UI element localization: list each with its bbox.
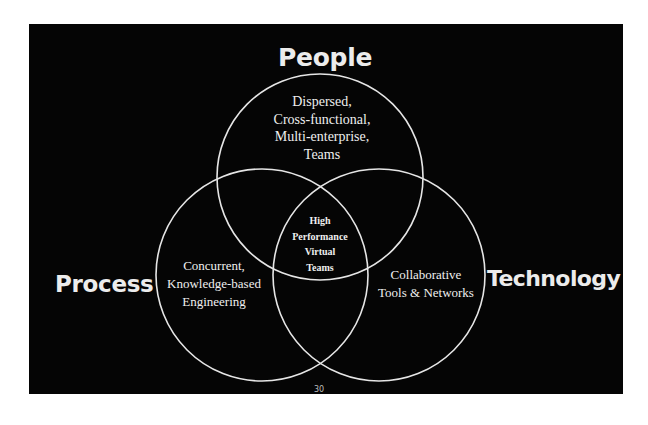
technology-label: Technology bbox=[487, 268, 620, 290]
center-region-line: Virtual bbox=[292, 244, 348, 260]
people-region-line: Teams bbox=[274, 146, 371, 164]
people-region-text: Dispersed, Cross-functional, Multi-enter… bbox=[274, 93, 371, 163]
process-region-line: Engineering bbox=[167, 293, 261, 311]
center-region-line: High bbox=[292, 213, 348, 229]
people-region-line: Multi-enterprise, bbox=[274, 128, 371, 146]
technology-region-line: Collaborative bbox=[378, 266, 474, 284]
technology-region-text: Collaborative Tools & Networks bbox=[378, 266, 474, 302]
people-label: People bbox=[278, 45, 372, 70]
center-region-line: Performance bbox=[292, 229, 348, 245]
people-region-line: Dispersed, bbox=[274, 93, 371, 111]
process-label: Process bbox=[55, 273, 154, 296]
process-region-text: Concurrent, Knowledge-based Engineering bbox=[167, 257, 261, 311]
page-number: 30 bbox=[314, 385, 324, 394]
center-region-text: High Performance Virtual Teams bbox=[292, 213, 348, 275]
technology-region-line: Tools & Networks bbox=[378, 284, 474, 302]
people-region-line: Cross-functional, bbox=[274, 111, 371, 129]
center-region-line: Teams bbox=[292, 260, 348, 276]
process-region-line: Knowledge-based bbox=[167, 275, 261, 293]
process-region-line: Concurrent, bbox=[167, 257, 261, 275]
